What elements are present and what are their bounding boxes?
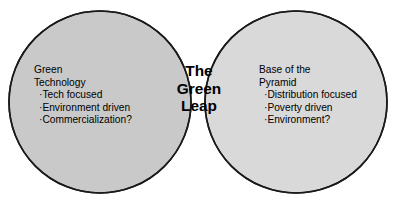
left-circle-title-line-1: Green: [34, 64, 132, 77]
list-item: ·Commercialization?: [34, 114, 132, 127]
list-item-label: Tech focused: [42, 89, 102, 100]
list-item: ·Environment?: [259, 114, 357, 127]
intersection-line-2: Green: [156, 80, 242, 98]
list-item-label: Distribution focused: [267, 89, 356, 100]
list-item: ·Environment driven: [34, 102, 132, 115]
intersection-line-1: The: [156, 62, 242, 80]
right-circle-title-line-1: Base of the: [259, 64, 357, 77]
right-circle-title-line-2: Pyramid: [259, 77, 357, 90]
right-circle-content: Base of the Pyramid ·Distribution focuse…: [259, 64, 357, 127]
list-item-label: Environment?: [267, 114, 330, 125]
venn-text-layer: Green Technology ·Tech focused ·Environm…: [0, 0, 396, 204]
list-item: ·Tech focused: [34, 89, 132, 102]
venn-diagram-canvas: Green Technology ·Tech focused ·Environm…: [0, 0, 396, 204]
left-circle-content: Green Technology ·Tech focused ·Environm…: [34, 64, 132, 127]
list-item-label: Commercialization?: [42, 114, 131, 125]
list-item: ·Distribution focused: [259, 89, 357, 102]
intersection-line-3: Leap: [156, 97, 242, 115]
intersection-content: The Green Leap: [156, 62, 242, 115]
left-circle-bullet-list: ·Tech focused ·Environment driven ·Comme…: [34, 89, 132, 127]
list-item-label: Poverty driven: [267, 102, 332, 113]
right-circle-bullet-list: ·Distribution focused ·Poverty driven ·E…: [259, 89, 357, 127]
left-circle-title-line-2: Technology: [34, 77, 132, 90]
list-item: ·Poverty driven: [259, 102, 357, 115]
list-item-label: Environment driven: [42, 102, 130, 113]
